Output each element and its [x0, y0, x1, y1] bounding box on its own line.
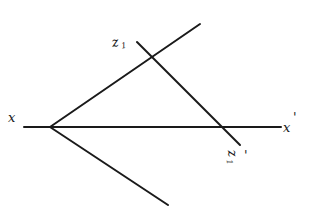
label-x-left: x: [8, 110, 16, 125]
label-z1-bottom: z 1: [223, 148, 242, 166]
svg-text:x: x: [283, 120, 291, 135]
svg-text:z: z: [109, 34, 119, 50]
z1-line: [137, 42, 240, 145]
svg-text:1: 1: [121, 41, 128, 51]
svg-text:z: z: [225, 148, 241, 158]
svg-text:': ': [293, 110, 297, 125]
upper-ray-line: [50, 24, 200, 127]
label-x-right: x ': [283, 110, 297, 135]
svg-text:1: 1: [224, 159, 234, 166]
geometry-diagram: x x ' z 1 z 1 ': [0, 0, 318, 224]
label-z1-top: z 1: [109, 33, 127, 52]
label-z1-bottom-mark: ': [244, 148, 248, 163]
lower-ray-line: [50, 127, 168, 205]
